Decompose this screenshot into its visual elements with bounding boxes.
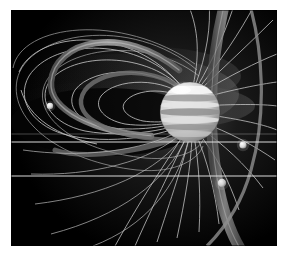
magnetosphere-illustration — [11, 10, 277, 246]
moon-io-lower — [215, 176, 229, 190]
polar-aurora-glow — [170, 81, 196, 95]
scene-svg — [11, 10, 277, 246]
moon-right-bright — [237, 139, 249, 151]
figure-stage — [0, 0, 287, 257]
moon-outer-left — [45, 101, 56, 112]
